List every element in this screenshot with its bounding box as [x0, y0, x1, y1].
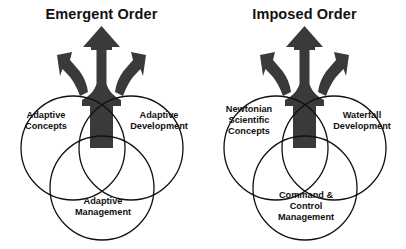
venn-label-upper-left: Newtonian Scientific Concepts: [217, 104, 281, 138]
venn-circle-bottom: [253, 136, 357, 240]
venn-label-upper-right: Adaptive Development: [124, 110, 194, 132]
venn-label-upper-left: Adaptive Concepts: [14, 110, 78, 132]
venn-label-bottom: Command & Control Management: [270, 190, 342, 224]
panel-emergent-order: Emergent Order Adaptive Concepts Adaptiv…: [0, 0, 203, 249]
venn-circle-bottom: [50, 136, 154, 240]
diagram-canvas: Emergent Order Adaptive Concepts Adaptiv…: [0, 0, 406, 249]
panel-imposed-order: Imposed Order Newtonian Scientific Conce…: [203, 0, 406, 249]
venn-label-upper-right: Waterfall Development: [327, 110, 397, 132]
venn-label-bottom: Adaptive Management: [67, 196, 139, 218]
